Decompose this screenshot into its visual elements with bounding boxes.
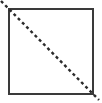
diagram-svg <box>0 0 102 103</box>
figure-canvas: A square outline with a dashed line draw… <box>0 0 102 103</box>
